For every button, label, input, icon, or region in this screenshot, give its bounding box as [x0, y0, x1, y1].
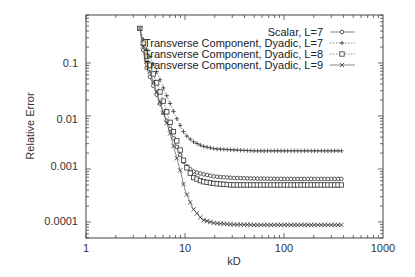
y-tick-0.001: 0.001 [50, 160, 78, 172]
y-axis-label: Relative Error [24, 92, 36, 160]
x-tick-1000: 1000 [371, 242, 395, 254]
y-tick-0.1: 0.1 [63, 57, 78, 69]
y-axis-tick-labels: 0.1 0.01 0.001 0.0001 [44, 57, 78, 227]
x-tick-1: 1 [83, 242, 89, 254]
y-tick-0.01: 0.01 [57, 113, 78, 125]
x-axis-tick-labels: 1 10 100 1000 [83, 242, 395, 254]
relative-error-chart: 0.1 0.01 0.001 0.0001 1 10 100 1000 kD R… [0, 0, 415, 277]
x-tick-100: 100 [275, 242, 293, 254]
legend-label-dyadic-l9: Transverse Component, Dyadic, L=9 [144, 59, 323, 71]
legend-samples [330, 30, 355, 67]
y-tick-0.0001: 0.0001 [44, 215, 78, 227]
x-tick-10: 10 [179, 242, 191, 254]
legend: Scalar, L=7 Transverse Component, Dyadic… [144, 26, 355, 71]
x-axis-label: kD [227, 255, 241, 267]
